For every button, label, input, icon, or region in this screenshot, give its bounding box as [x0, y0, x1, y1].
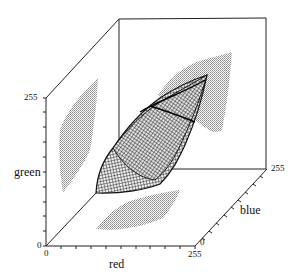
- left-wall-projection: [59, 78, 98, 193]
- blue-axis-title: blue: [240, 204, 261, 216]
- wireframe-surface: [96, 75, 207, 193]
- rgb-3d-plot: [0, 0, 300, 278]
- blue-axis-min-label: 0: [200, 238, 205, 247]
- green-axis-min-label: 0: [37, 241, 42, 250]
- green-axis-title: green: [14, 166, 41, 178]
- green-axis-max-label: 255: [24, 93, 38, 102]
- red-axis-title: red: [109, 258, 124, 270]
- red-axis-max-label: 255: [188, 250, 202, 259]
- red-axis-min-label: 0: [44, 249, 49, 258]
- floor-projection: [96, 190, 180, 230]
- blue-axis-max-label: 255: [271, 164, 285, 173]
